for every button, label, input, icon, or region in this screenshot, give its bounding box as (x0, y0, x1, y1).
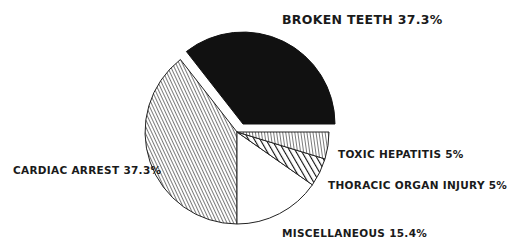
label-thoracic-organ-injury: THORACIC ORGAN INJURY 5% (328, 179, 507, 191)
label-miscellaneous: MISCELLANEOUS 15.4% (282, 227, 427, 239)
label-cardiac-arrest: CARDIAC ARREST 37.3% (13, 164, 161, 176)
label-toxic-hepatitis: TOXIC HEPATITIS 5% (338, 148, 464, 160)
label-broken-teeth: BROKEN TEETH 37.3% (282, 12, 443, 27)
